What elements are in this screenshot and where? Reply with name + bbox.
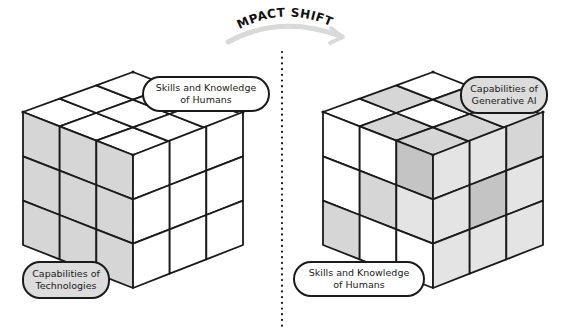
- right-top-label-capabilities-genai: Capabilities of Generative AI: [460, 76, 548, 114]
- left-bottom-label-capabilities-technologies: Capabilities of Technologies: [22, 261, 110, 299]
- left-top-label-skills-humans: Skills and Knowledge of Humans: [142, 76, 270, 112]
- right-bottom-label-skills-humans: Skills and Knowledge of Humans: [293, 261, 425, 297]
